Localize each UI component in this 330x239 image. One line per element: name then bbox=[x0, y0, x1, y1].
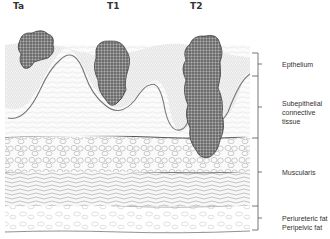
layer-label-fat-line2: Peripelvic fat bbox=[282, 223, 328, 232]
layer-label-subepithelial: Subepithelial connective tissue bbox=[282, 99, 330, 126]
layer-label-subepithelial-line2: connective tissue bbox=[282, 108, 330, 126]
layer-label-fat-line1: Periureteric fat bbox=[282, 214, 328, 223]
bladder-wall-diagram bbox=[0, 0, 330, 239]
layer-label-fat: Periureteric fat Peripelvic fat bbox=[282, 214, 328, 232]
layer-label-epithelium: Epthelium bbox=[282, 60, 313, 69]
stage-label-ta: Ta bbox=[13, 1, 24, 11]
fat-layer bbox=[5, 205, 250, 232]
stage-label-t1: T1 bbox=[107, 1, 119, 11]
layer-label-muscularis: Muscularis bbox=[282, 168, 315, 177]
layer-label-subepithelial-line1: Subepithelial bbox=[282, 99, 330, 108]
muscularis-wavy-layer bbox=[5, 172, 250, 206]
layer-brackets bbox=[252, 53, 262, 230]
stage-label-t2: T2 bbox=[190, 1, 202, 11]
